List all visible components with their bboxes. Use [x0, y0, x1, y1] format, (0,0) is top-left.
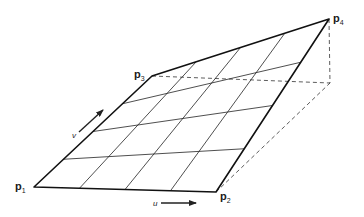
corner-label-p2: p2 [220, 190, 231, 204]
grid-line-v [123, 62, 301, 104]
dashed-line-p4 [329, 19, 330, 83]
dashed-line-p3 [152, 76, 330, 83]
v-axis-label: v [72, 131, 77, 140]
corner-label-p3: p3 [134, 68, 145, 82]
grid-line-v [64, 149, 245, 160]
u-axis-label: u [153, 199, 158, 208]
surface-boundary [34, 19, 329, 192]
corner-label-p4: p4 [333, 12, 344, 26]
bilinear-patch-diagram: u v p1 p2 p3 p4 [0, 0, 364, 217]
dashed-projection-lines [152, 19, 330, 192]
corner-label-p1: p1 [15, 180, 26, 194]
grid-line-v [93, 106, 273, 132]
v-direction-arrow-icon [79, 110, 103, 132]
dashed-line-p2 [216, 83, 330, 192]
surface-grid-lines [64, 33, 301, 191]
surface-outline [34, 19, 329, 192]
